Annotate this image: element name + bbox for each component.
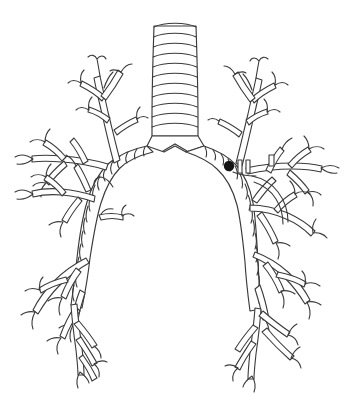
left-upper-branch <box>114 117 138 135</box>
right-lower-lobe-tree <box>253 252 321 338</box>
left-mid-twig <box>15 190 33 199</box>
right-lower-twig <box>307 302 321 319</box>
trachea-group <box>152 23 198 136</box>
bronchial-stub <box>246 160 250 173</box>
left-mid-branch <box>74 164 91 192</box>
right-mid-twig <box>313 219 327 238</box>
right-mid-lobe-tree <box>250 177 327 259</box>
left-terminal-twig <box>94 346 101 358</box>
left-lateral-twig <box>15 155 33 164</box>
left-mid-branch <box>62 197 82 223</box>
left-upper-twig <box>137 107 148 119</box>
right-upper-twig <box>208 119 219 121</box>
right-lower-twig <box>302 271 320 286</box>
lesion-marker-dot[interactable] <box>224 161 234 171</box>
right-lateral-trunk <box>246 163 322 174</box>
left-mid-twig <box>49 222 63 237</box>
right-upper-branch <box>233 72 255 102</box>
bronchial-tree-figure: Bronchial tree line drawing trachea cari… <box>0 0 354 400</box>
right-terminal-twig <box>288 324 298 345</box>
left-upper-branch <box>101 70 123 100</box>
right-inner-stub <box>269 155 274 166</box>
right-lateral-twig <box>282 138 292 149</box>
right-upper-branch <box>218 119 242 137</box>
left-lower-twig <box>21 312 35 329</box>
right-terminal-twig <box>243 376 255 392</box>
left-lower-twig <box>48 298 62 315</box>
right-mid-branch <box>257 212 278 244</box>
left-upper-twig <box>88 55 106 76</box>
left-stub-branch <box>99 214 123 221</box>
right-lateral-twig <box>321 166 339 174</box>
left-main-bronchus-group <box>71 146 153 308</box>
left-lower-fine-twig <box>47 338 61 354</box>
left-upper-twig <box>110 64 132 72</box>
trachea-tube <box>152 26 198 136</box>
left-terminal-tree <box>71 304 107 388</box>
right-mid-twig <box>276 243 290 259</box>
right-upper-lobe-tree <box>208 57 288 166</box>
bronchial-tree-illustration <box>0 0 354 400</box>
left-stub-twig <box>122 205 134 216</box>
right-terminal-tree <box>225 308 301 392</box>
right-lower-twig <box>281 291 295 308</box>
right-upper-twig <box>224 66 246 74</box>
left-terminal-twig <box>77 372 89 388</box>
left-lower-twig <box>25 277 43 291</box>
bronchial-stub <box>238 160 242 173</box>
right-upper-twig <box>250 57 268 78</box>
right-mid-branch <box>252 177 276 203</box>
